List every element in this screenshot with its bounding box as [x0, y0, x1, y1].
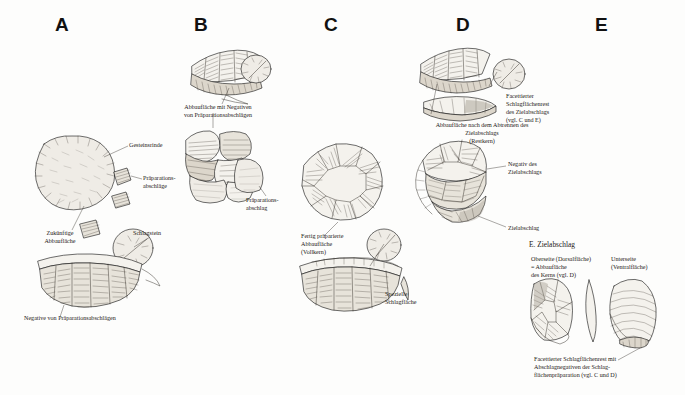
label-heading-e: E. Zielabschlag	[529, 240, 575, 250]
flake-dorsal-view-e	[531, 279, 573, 344]
label-caption-e: Facettierter Schlagflächenrest mit Absch…	[534, 355, 617, 379]
figure-canvas: A B C D E	[0, 0, 685, 395]
label-ventral-face-e: Unterseite (Ventralfläche)	[611, 255, 648, 271]
label-dorsal-face-e: Oberseite (Dorsalfläche) = Abbaufläche d…	[531, 255, 591, 279]
flake-profile-view-e	[586, 280, 596, 342]
drawing-column-e	[0, 0, 685, 395]
flake-ventral-view-e	[610, 279, 656, 348]
